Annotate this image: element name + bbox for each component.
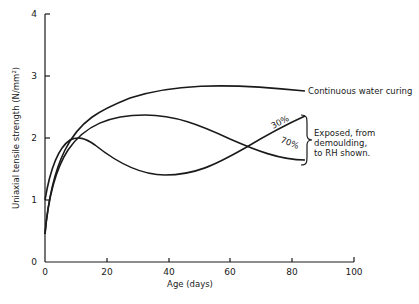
label-exposed-line2: demoulding,	[314, 138, 367, 148]
svg-text:40: 40	[163, 267, 175, 277]
svg-text:100: 100	[345, 267, 362, 277]
svg-text:2: 2	[31, 133, 37, 143]
x-tick-labels: 0 20 40 60 80 100	[42, 267, 363, 277]
svg-text:3: 3	[31, 71, 37, 81]
svg-text:0: 0	[31, 257, 37, 267]
x-axis	[45, 257, 354, 262]
y-tick-labels: 0 1 2 3 4	[31, 9, 37, 267]
svg-text:1: 1	[31, 195, 37, 205]
svg-text:80: 80	[286, 267, 298, 277]
chart-canvas: 0 1 2 3 4 0 20 40 60 80 100 Age (days) U…	[0, 0, 419, 304]
x-axis-title: Age (days)	[167, 279, 213, 289]
label-exposed-line3: to RH shown.	[314, 148, 370, 158]
label-exposed-line1: Exposed, from	[314, 128, 375, 138]
svg-text:0: 0	[42, 267, 48, 277]
brace-icon	[301, 115, 312, 165]
svg-text:60: 60	[224, 267, 236, 277]
series-continuous-curing	[45, 86, 305, 234]
label-continuous-curing: Continuous water curing	[308, 86, 412, 96]
label-70-percent: 70%	[279, 135, 300, 151]
svg-text:20: 20	[101, 267, 113, 277]
series-exposed-30rh	[45, 116, 305, 200]
y-axis-title: Uniaxial tensile strength (N/mm²)	[11, 67, 21, 209]
svg-text:4: 4	[31, 9, 37, 19]
